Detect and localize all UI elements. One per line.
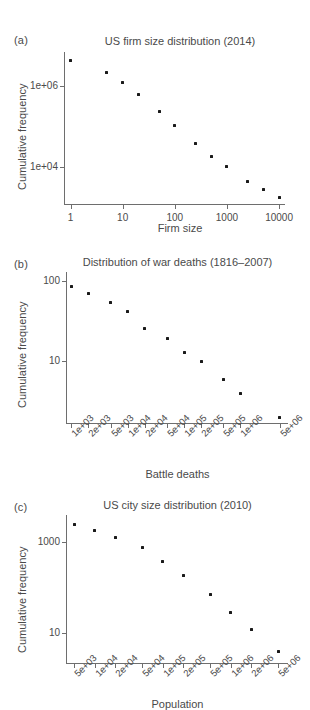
panel-c-tag: (c) [14, 501, 27, 513]
data-point [225, 165, 228, 168]
data-point [109, 301, 112, 304]
panel-a-ylabel: Cumulative frequency [16, 84, 28, 190]
data-point [173, 124, 176, 127]
panel-a-plot-area [64, 52, 294, 210]
panel-a-tag: (a) [14, 34, 28, 46]
y-axis-tick [60, 167, 64, 168]
data-point [70, 285, 73, 288]
panel-a-y-axis [64, 52, 65, 204]
data-point [222, 378, 225, 381]
data-point [250, 628, 253, 631]
data-point [141, 546, 144, 549]
data-point [143, 327, 146, 330]
data-point [277, 650, 280, 653]
panel-a-xlabel: Firm size [55, 222, 305, 234]
panel-c-plot-area [66, 515, 296, 667]
data-point [166, 337, 169, 340]
data-point [161, 560, 164, 563]
data-point [210, 155, 213, 158]
data-point [158, 110, 161, 113]
panel-b-title: Distribution of war deaths (1816–2007) [50, 256, 305, 268]
panel-b: (b) Distribution of war deaths (1816–200… [0, 240, 310, 485]
panel-c-xlabel: Population [50, 698, 305, 710]
y-axis-tick [62, 633, 66, 634]
x-axis-tick-label: 10 [93, 212, 153, 223]
panel-b-xlabel: Battle deaths [50, 468, 305, 480]
data-point [200, 360, 203, 363]
y-axis-tick-label: 10 [0, 355, 60, 366]
data-point [194, 142, 197, 145]
data-point [87, 292, 90, 295]
data-point [114, 536, 117, 539]
panel-b-plot-area [66, 272, 296, 427]
data-point [93, 529, 96, 532]
y-axis-tick-label: 1000 [0, 536, 60, 547]
data-point [182, 574, 185, 577]
y-axis-tick-label: 10 [0, 627, 60, 638]
x-axis-tick-label: 10000 [249, 212, 309, 223]
y-axis-tick [62, 542, 66, 543]
data-point [126, 310, 129, 313]
data-point [121, 81, 124, 84]
y-axis-tick-label: 1e+06 [0, 80, 58, 91]
data-point [137, 93, 140, 96]
data-point [105, 71, 108, 74]
data-point [239, 392, 242, 395]
data-point [69, 59, 72, 62]
data-point [73, 523, 76, 526]
x-axis-tick [71, 205, 72, 209]
data-point [246, 180, 249, 183]
data-point [229, 611, 232, 614]
panel-c-title: US city size distribution (2010) [50, 499, 305, 511]
y-axis-tick [62, 281, 66, 282]
panel-b-y-axis [66, 272, 67, 423]
x-axis-tick-label: 1000 [197, 212, 257, 223]
x-axis-tick [227, 205, 228, 209]
panel-a-title: US firm size distribution (2014) [55, 35, 305, 47]
panel-c: (c) US city size distribution (2010) Cum… [0, 485, 310, 705]
x-axis-tick [279, 205, 280, 209]
x-axis-tick [123, 205, 124, 209]
data-point [278, 416, 281, 419]
panel-a: (a) US firm size distribution (2014) Cum… [0, 0, 310, 240]
data-point [183, 351, 186, 354]
data-point [262, 188, 265, 191]
panel-b-tag: (b) [14, 258, 28, 270]
x-axis-tick-label: 100 [145, 212, 205, 223]
data-point [278, 196, 281, 199]
data-point [209, 593, 212, 596]
y-axis-tick [62, 361, 66, 362]
panel-c-y-axis [66, 515, 67, 663]
x-axis-tick [175, 205, 176, 209]
x-axis-tick-label: 1 [41, 212, 101, 223]
y-axis-tick [60, 86, 64, 87]
y-axis-tick-label: 1e+04 [0, 161, 58, 172]
y-axis-tick-label: 100 [0, 275, 60, 286]
